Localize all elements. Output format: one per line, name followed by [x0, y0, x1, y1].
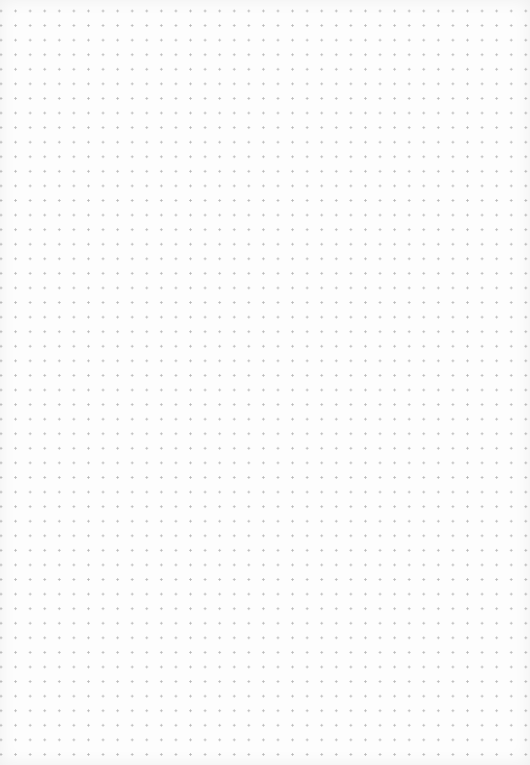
page-edge-shading	[0, 0, 530, 765]
dot-grid-page	[0, 0, 530, 765]
